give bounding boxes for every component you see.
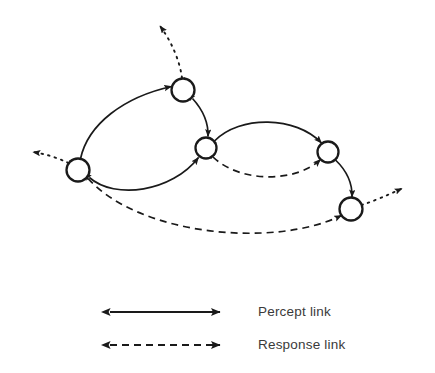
external-links-layer [33,26,402,205]
percept-link-upper-right-lower-right [336,160,353,197]
figure-root: Percept link Response link [0,0,435,373]
nodes-layer [67,79,363,221]
percept-link-center-upper-right [215,122,322,143]
percept-link-left-top [81,87,172,159]
links-layer [81,87,353,234]
node-center[interactable] [196,138,217,159]
response-link-center-upper-right [213,157,321,177]
node-left[interactable] [67,159,90,182]
response-link-external-left [33,152,69,163]
node-upper-right[interactable] [318,142,339,163]
response-link-external-top [160,26,182,78]
percept-link-left-center [89,158,198,191]
response-link-left-lower-right [88,179,342,234]
diagram-canvas [0,0,435,373]
legend [110,312,220,345]
response-link-external-right [362,189,403,206]
legend-percept-label: Percept link [258,304,331,319]
legend-response-label: Response link [258,337,345,352]
node-lower-right[interactable] [340,198,363,221]
percept-link-top-center [193,99,209,137]
node-top[interactable] [172,79,195,102]
